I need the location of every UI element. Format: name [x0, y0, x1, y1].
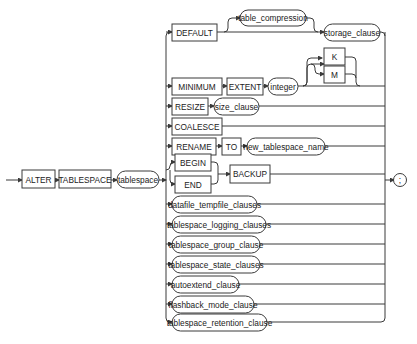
storage-clause-param: storage_clause: [324, 28, 381, 38]
branch-rename: RENAME TO new_tablespace_name: [166, 138, 385, 155]
default-keyword: DEFAULT: [176, 28, 213, 38]
tablespace-keyword: TABLESPACE: [58, 175, 112, 185]
branch-minimum-extent: MINIMUM EXTENT integer K M: [166, 48, 385, 95]
tablespace-param: tablespace: [118, 175, 159, 185]
datafile-tempfile-clauses: datafile_tempfile_clauses: [168, 200, 261, 210]
extent-keyword: EXTENT: [229, 82, 262, 92]
syntax-diagram: ALTER TABLESPACE tablespace ; DEFAULT ta…: [0, 0, 417, 344]
flashback-mode-clause: flashback_mode_clause: [168, 300, 257, 310]
resize-keyword: RESIZE: [175, 102, 205, 112]
tablespace-state-clauses: tablespace_state_clauses: [168, 260, 263, 270]
k-unit: K: [332, 52, 338, 62]
minimum-keyword: MINIMUM: [178, 82, 215, 92]
integer-param: integer: [270, 82, 296, 92]
branch-default: DEFAULT table_compression storage_clause: [166, 10, 385, 41]
to-keyword: TO: [226, 142, 238, 152]
table-compression-param: table_compression: [238, 13, 308, 23]
backup-keyword: BACKUP: [233, 169, 268, 179]
rename-keyword: RENAME: [176, 142, 212, 152]
coalesce-keyword: COALESCE: [174, 122, 220, 132]
tablespace-logging-clauses: tablespace_logging_clauses: [167, 220, 271, 230]
branch-backup: BEGIN END BACKUP: [166, 154, 385, 193]
alter-keyword: ALTER: [25, 175, 51, 185]
size-clause-param: size_clause: [215, 102, 259, 112]
branch-resize: RESIZE size_clause: [166, 98, 385, 115]
right-rail: [381, 32, 385, 322]
terminator: ;: [399, 175, 401, 185]
end-keyword: END: [184, 180, 202, 190]
main-path: ALTER TABLESPACE tablespace: [6, 170, 166, 188]
tablespace-group-clause: tablespace_group_clause: [169, 240, 264, 250]
branch-coalesce: COALESCE: [166, 118, 385, 135]
begin-keyword: BEGIN: [180, 158, 206, 168]
tablespace-retention-clause: tablespace_retention_clause: [167, 318, 273, 328]
autoextend-clause: autoextend_clause: [171, 280, 241, 290]
new-tablespace-name-param: new_tablespace_name: [243, 142, 329, 152]
m-unit: M: [331, 70, 338, 80]
branch-clauses: datafile_tempfile_clauses tablespace_log…: [166, 196, 385, 331]
